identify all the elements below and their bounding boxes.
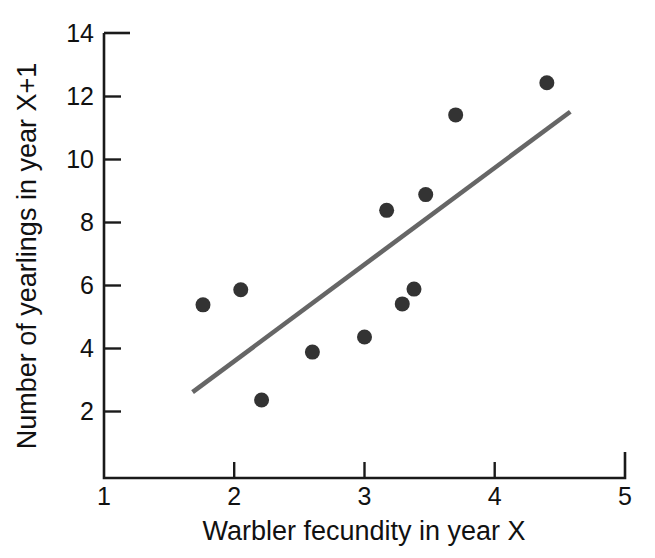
y-tick-marks — [104, 97, 121, 412]
x-tick-label-3: 3 — [358, 482, 372, 510]
data-point — [448, 107, 463, 122]
axis-frame — [104, 33, 625, 478]
data-points-group — [195, 75, 554, 407]
data-point — [418, 187, 433, 202]
y-tick-label-8: 8 — [80, 208, 94, 236]
x-tick-label-2: 2 — [227, 482, 241, 510]
y-tick-label-12: 12 — [66, 82, 94, 110]
y-tick-labels: 14 12 10 8 6 4 2 — [66, 19, 94, 425]
trend-line-group — [193, 112, 571, 392]
scatter-plot-figure: 14 12 10 8 6 4 2 1 2 3 4 5 Warbler fecun… — [0, 0, 655, 558]
x-tick-marks — [234, 462, 495, 478]
data-point — [539, 75, 554, 90]
y-tick-label-6: 6 — [80, 271, 94, 299]
data-point — [379, 203, 394, 218]
x-tick-labels: 1 2 3 4 5 — [97, 482, 632, 510]
data-point — [233, 282, 248, 297]
data-point — [305, 345, 320, 360]
data-point — [195, 297, 210, 312]
y-tick-label-14: 14 — [66, 19, 94, 47]
y-axis-title: Number of yearlings in year X+1 — [12, 63, 42, 449]
y-tick-label-4: 4 — [80, 334, 94, 362]
data-point — [357, 329, 372, 344]
y-tick-label-2: 2 — [80, 397, 94, 425]
x-axis-title: Warbler fecundity in year X — [202, 516, 525, 546]
trend-line — [193, 112, 571, 392]
plot-frame-path — [104, 33, 625, 478]
x-tick-label-1: 1 — [97, 482, 111, 510]
x-tick-label-4: 4 — [488, 482, 502, 510]
y-tick-label-10: 10 — [66, 145, 94, 173]
chart-canvas: 14 12 10 8 6 4 2 1 2 3 4 5 Warbler fecun… — [0, 0, 655, 558]
data-point — [406, 282, 421, 297]
data-point — [395, 296, 410, 311]
x-tick-label-5: 5 — [618, 482, 632, 510]
data-point — [254, 392, 269, 407]
